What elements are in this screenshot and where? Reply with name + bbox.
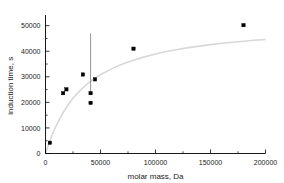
x-tick-label: 200000 bbox=[254, 159, 277, 166]
x-axis-ticks bbox=[46, 150, 266, 154]
data-point-marker bbox=[89, 101, 92, 104]
y-tick-label: 10000 bbox=[21, 125, 41, 132]
data-point-marker bbox=[48, 141, 51, 144]
x-tick-label: 150000 bbox=[199, 159, 222, 166]
chart-figure: 050000100000150000200000 010000200003000… bbox=[0, 0, 284, 183]
y-tick-label: 40000 bbox=[21, 48, 41, 55]
y-tick-label: 30000 bbox=[21, 73, 41, 80]
data-point-marker bbox=[93, 78, 96, 81]
y-axis-tick-labels: 01000020000300004000050000 bbox=[21, 22, 41, 157]
y-axis-ticks bbox=[46, 26, 50, 154]
data-point-marker bbox=[89, 91, 92, 94]
data-point-marker bbox=[81, 73, 84, 76]
data-point-marker bbox=[61, 91, 64, 94]
data-point-marker bbox=[132, 47, 135, 50]
y-tick-label: 0 bbox=[37, 150, 41, 157]
x-tick-label: 50000 bbox=[91, 159, 111, 166]
data-point-marker bbox=[242, 23, 245, 26]
x-axis-tick-labels: 050000100000150000200000 bbox=[44, 159, 278, 166]
scatter-plot: 050000100000150000200000 010000200003000… bbox=[0, 0, 284, 183]
x-tick-label: 0 bbox=[44, 159, 48, 166]
y-tick-label: 20000 bbox=[21, 99, 41, 106]
data-point-marker bbox=[65, 88, 68, 91]
fit-curve-line bbox=[46, 39, 266, 153]
axes bbox=[46, 15, 266, 154]
x-tick-label: 100000 bbox=[144, 159, 167, 166]
fit-curve bbox=[46, 39, 266, 153]
y-tick-label: 50000 bbox=[21, 22, 41, 29]
x-axis-title: molar mass, Da bbox=[127, 172, 184, 181]
data-points bbox=[48, 23, 245, 144]
y-axis-title: induction time, s bbox=[6, 57, 15, 115]
